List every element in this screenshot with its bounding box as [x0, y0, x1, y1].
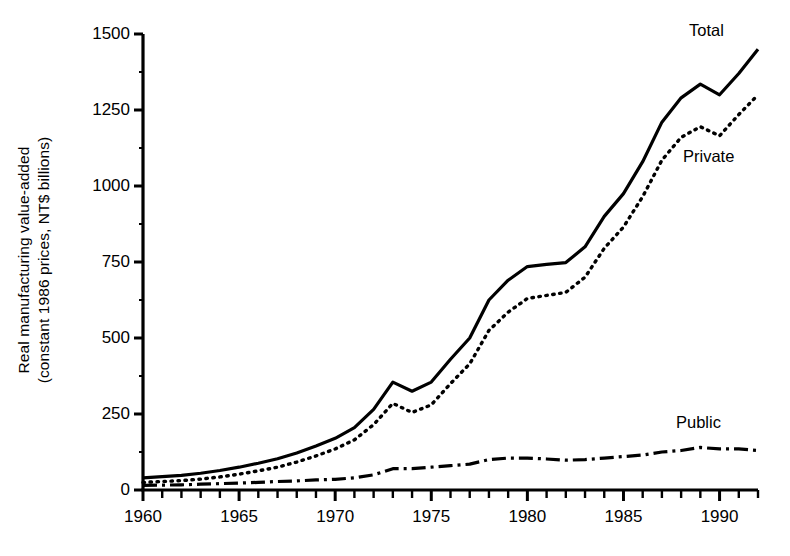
series-line-total — [143, 49, 758, 478]
x-axis-tick-label: 1975 — [391, 508, 471, 525]
y-axis-tick-label: 1500 — [60, 25, 130, 42]
series-label-private: Private — [683, 148, 734, 165]
x-axis-tick-label: 1990 — [680, 508, 760, 525]
x-axis-tick-label: 1960 — [103, 508, 183, 525]
x-axis-tick-label: 1965 — [199, 508, 279, 525]
x-axis-tick-label: 1985 — [583, 508, 663, 525]
plot-area — [0, 0, 790, 556]
y-axis-tick-label: 1000 — [60, 177, 130, 194]
y-axis-tick-label: 500 — [60, 329, 130, 346]
x-axis-tick-label: 1970 — [295, 508, 375, 525]
y-axis-tick-label: 750 — [60, 253, 130, 270]
y-axis-tick-label: 1250 — [60, 101, 130, 118]
y-axis-tick-label: 0 — [60, 481, 130, 498]
x-axis-tick-label: 1980 — [487, 508, 567, 525]
series-label-total: Total — [689, 22, 724, 39]
series-line-private — [143, 95, 758, 483]
series-label-public: Public — [676, 414, 721, 431]
y-axis-tick-label: 250 — [60, 405, 130, 422]
chart-figure: Real manufacturing value-added (constant… — [0, 0, 790, 556]
